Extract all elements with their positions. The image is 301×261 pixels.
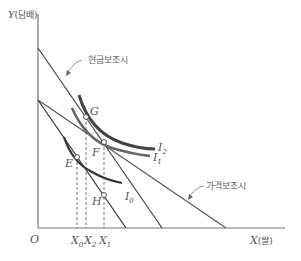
point-label-H: H <box>91 195 102 208</box>
point-label-E: E <box>64 157 73 170</box>
y-axis-label: YY(담배)(담배) <box>8 9 38 20</box>
cash-subsidy-pointer <box>68 60 82 72</box>
point-H <box>102 193 107 198</box>
point-F <box>102 140 107 145</box>
curve-label-I0: I0 <box>124 190 134 205</box>
point-G <box>84 115 89 120</box>
point-label-G: G <box>90 105 99 118</box>
price-subsidy-label: 가격보조시 <box>206 180 246 191</box>
tick-label-X1: X1 <box>98 234 111 249</box>
subsidy-indifference-diagram: YY(담배)(담배) O X(쌀) 현금보조시 가격보조시 I2 I1 I0 G… <box>0 0 301 261</box>
origin-label: O <box>30 233 39 246</box>
tick-label-X2: X2 <box>83 234 97 249</box>
tick-label-X0: X0 <box>70 234 84 249</box>
x-axis-label: X(쌀) <box>249 234 273 247</box>
indifference-curve-I2 <box>79 95 155 149</box>
point-label-F: F <box>91 146 100 159</box>
curve-label-I2: I2 <box>157 141 167 156</box>
point-E <box>75 155 80 160</box>
cash-subsidy-label: 현금보조시 <box>88 55 128 65</box>
price-subsidy-pointer <box>190 186 204 196</box>
